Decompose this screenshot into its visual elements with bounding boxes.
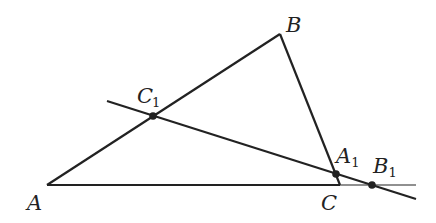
label-c: C — [321, 191, 337, 215]
label-a: A — [25, 191, 42, 215]
label-b: B — [285, 13, 301, 37]
label-b1: B1 — [372, 154, 397, 180]
point-a1 — [332, 170, 340, 178]
side-ab — [47, 34, 280, 185]
label-a1: A1 — [334, 144, 359, 170]
side-bc — [280, 34, 340, 185]
point-b1 — [368, 181, 376, 189]
label-c1: C1 — [137, 84, 160, 110]
geometry-diagram: A B C C1 A1 B1 — [0, 0, 436, 223]
point-c1 — [149, 112, 157, 120]
